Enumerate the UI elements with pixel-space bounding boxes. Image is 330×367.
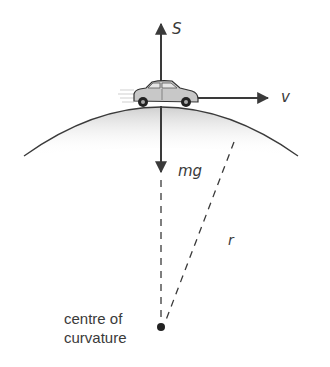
radius-label: r [228, 232, 235, 248]
weight-label: mg [178, 162, 202, 180]
centre-of-curvature-dot [157, 323, 165, 331]
normal-force-label: S [172, 20, 182, 38]
centre-label-line2: curvature [64, 329, 127, 346]
car-on-hill-diagram: S v mg r centre of curvature [0, 0, 330, 367]
car-icon [118, 81, 198, 107]
velocity-label: v [281, 88, 291, 106]
centre-label-line1: centre of [64, 310, 123, 327]
